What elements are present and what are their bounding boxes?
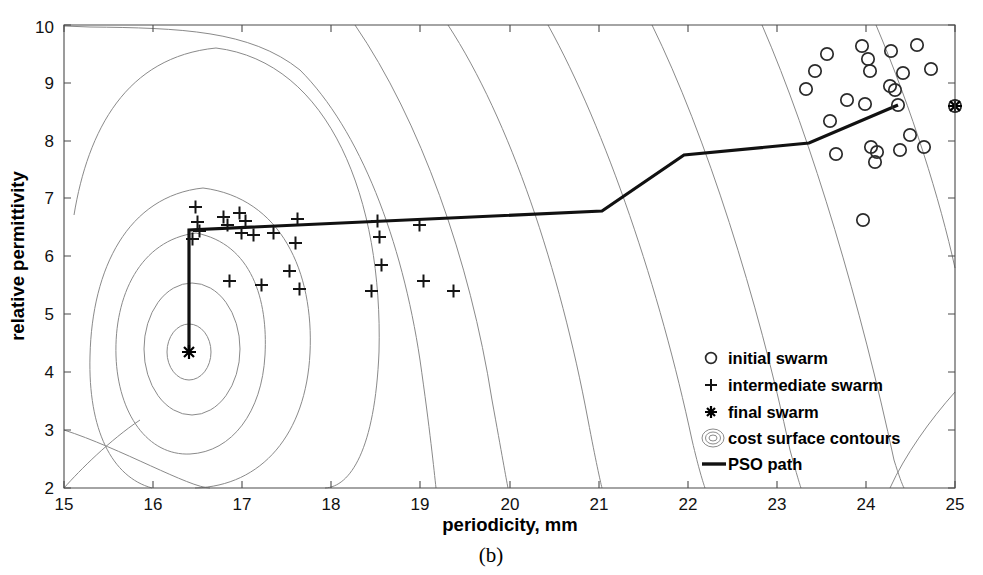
pso-convergence-chart: 15 16 17 18 19 20 21 22 23 24 25 2 3 4 5… (0, 0, 983, 575)
x-tick-label: 15 (55, 495, 74, 514)
legend-label: PSO path (728, 455, 802, 473)
legend-label: final swarm (728, 403, 819, 421)
legend-circle-icon (706, 353, 717, 364)
pso-path (189, 105, 898, 352)
legend-contour-rings-icon (702, 429, 724, 447)
figure-panel: 15 16 17 18 19 20 21 22 23 24 25 2 3 4 5… (0, 0, 983, 575)
x-axis-ticks (64, 25, 955, 488)
y-tick-label: 2 (45, 479, 54, 498)
x-tick-labels: 15 16 17 18 19 20 21 22 23 24 25 (55, 495, 965, 514)
x-tick-label: 17 (233, 495, 252, 514)
x-tick-label: 19 (411, 495, 430, 514)
x-tick-label: 25 (946, 495, 965, 514)
intermediate-swarm-markers (186, 201, 460, 298)
y-axis-ticks (64, 25, 955, 488)
y-tick-label: 6 (45, 247, 54, 266)
x-tick-label: 20 (501, 495, 520, 514)
y-tick-label: 3 (45, 421, 54, 440)
legend-label: intermediate swarm (728, 376, 883, 394)
y-tick-labels: 2 3 4 5 6 7 8 9 10 (35, 18, 54, 498)
y-tick-label: 8 (45, 132, 54, 151)
plot-frame (64, 25, 955, 488)
legend-label: initial swarm (728, 349, 828, 367)
x-tick-label: 23 (768, 495, 787, 514)
legend-label: cost surface contours (728, 429, 900, 447)
legend: initial swarm intermediate swarm final s… (702, 349, 900, 473)
x-tick-label: 24 (857, 495, 876, 514)
y-tick-label: 5 (45, 305, 54, 324)
y-tick-label: 7 (45, 189, 54, 208)
x-axis-title: periodicity, mm (442, 514, 577, 535)
legend-plus-icon (705, 379, 717, 391)
y-tick-label: 4 (45, 363, 54, 382)
cost-surface-contours (64, 25, 955, 488)
y-tick-label: 9 (45, 74, 54, 93)
figure-caption: (b) (479, 543, 504, 567)
x-tick-label: 21 (590, 495, 609, 514)
x-tick-label: 16 (144, 495, 163, 514)
y-tick-label: 10 (35, 18, 54, 37)
x-tick-label: 18 (322, 495, 341, 514)
y-axis-title: relative permittivity (7, 170, 28, 340)
final-swarm-markers (182, 99, 962, 359)
legend-star-icon (705, 406, 717, 418)
x-tick-label: 22 (679, 495, 698, 514)
